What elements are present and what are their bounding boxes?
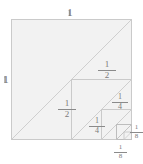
fraction-denominator: 2 [98, 71, 116, 80]
fraction-numerator: 1 [114, 144, 127, 151]
region-label-quarter-lower: 1 4 [89, 117, 105, 135]
fraction-numerator: 1 [112, 93, 128, 101]
region-label-eighth-lower: 1 8 [114, 144, 127, 160]
fraction-numerator: 1 [98, 60, 116, 69]
region-label-half-lower: 1 2 [58, 99, 76, 119]
fraction-numerator: 1 [130, 124, 143, 131]
fraction-denominator: 8 [130, 133, 143, 140]
fraction-numerator: 1 [89, 117, 105, 125]
fraction-denominator: 4 [89, 127, 105, 135]
region-label-eighth-right: 1 8 [130, 124, 143, 140]
fraction-denominator: 4 [112, 103, 128, 111]
side-label-left: 1 [0, 74, 14, 85]
fraction-denominator: 8 [114, 153, 127, 160]
region-label-quarter-right: 1 4 [112, 93, 128, 111]
side-label-top: 1 [62, 7, 78, 18]
geometric-series-figure: 1 1 1 2 1 2 1 4 1 4 1 8 1 8 [0, 0, 143, 164]
fraction-numerator: 1 [58, 99, 76, 108]
fraction-denominator: 2 [58, 110, 76, 119]
region-label-half-upper: 1 2 [98, 60, 116, 80]
subdivided-square-graphic [0, 0, 143, 164]
